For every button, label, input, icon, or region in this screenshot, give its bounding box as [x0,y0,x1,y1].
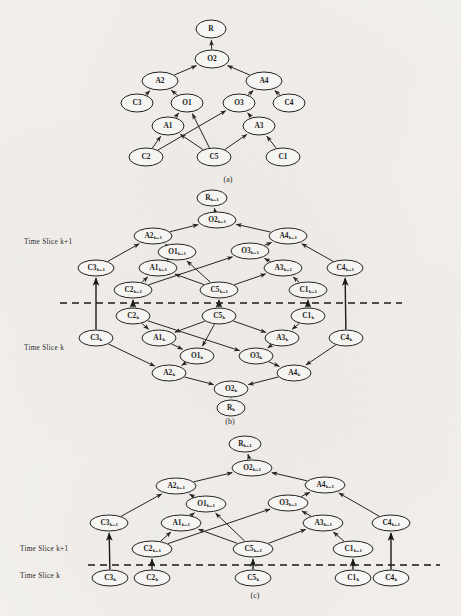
bayesian-network-diagram: RO2A2A4C3O1O3C4A1A3C2C5C1(a)Rk+1O2k+1A2k… [0,0,461,616]
node-subscript: k [256,577,259,582]
node-R-k[interactable]: Rk [217,400,245,416]
node-C1-k[interactable]: C1k [335,570,371,586]
node-subscript: k [172,372,175,377]
node-label: A1 [149,263,158,272]
node-label: A2 [167,481,176,490]
edge-C1k1-to-A3k1 [333,532,344,541]
node-O1-k[interactable]: O1k [180,348,214,364]
edge-C5k1-to-O1k1 [187,261,211,282]
node-C4-k+1[interactable]: C4k+1 [327,260,363,276]
node-label: A3 [314,518,323,527]
time-slice-label: Time Slice k [24,344,64,352]
node-A3-k+1[interactable]: A3k+1 [303,515,343,531]
node-O3[interactable]: O3 [223,94,255,112]
node-subscript: k+1 [326,484,335,489]
node-A4-k[interactable]: A4k [277,365,311,381]
node-R[interactable]: R [196,20,226,38]
node-label: A4 [288,368,297,377]
node-A1-k+1[interactable]: A1k+1 [161,515,201,531]
node-A4-k+1[interactable]: A4k+1 [305,477,345,493]
node-C5-k+1[interactable]: C5k+1 [233,541,273,557]
node-C5-k[interactable]: C5k [235,570,271,586]
node-A4[interactable]: A4 [246,72,282,90]
node-label: A2 [163,368,172,377]
node-C2-k+1[interactable]: C2k+1 [132,541,172,557]
node-subscript: k [200,355,203,360]
node-A1-k[interactable]: A1k [142,330,176,346]
node-subscript: k+1 [153,548,162,553]
node-C2-k+1[interactable]: C2k+1 [114,282,152,298]
node-O3-k+1[interactable]: O3k+1 [268,495,308,511]
node-C3-k[interactable]: C3k [79,330,113,346]
node-C4[interactable]: C4 [273,94,305,112]
node-label: C2 [143,544,152,553]
edge-C5k1-to-A3k1 [268,529,305,543]
node-C2-k[interactable]: C2k [116,308,150,324]
node-O1-k+1[interactable]: O1k+1 [186,496,226,512]
node-A2[interactable]: A2 [142,72,178,90]
node-O3-k+1[interactable]: O3k+1 [231,243,269,259]
node-subscript: k [234,388,237,393]
node-A3-k[interactable]: A3k [265,330,299,346]
node-A2-k+1[interactable]: A2k+1 [134,228,172,244]
node-C1-k+1[interactable]: C1k+1 [333,541,373,557]
node-O1-k+1[interactable]: O1k+1 [158,244,196,260]
node-subscript: k+1 [182,522,191,527]
node-label: C1 [344,544,353,553]
node-label: C4 [284,98,293,107]
node-label: O2 [207,54,217,63]
node-O2-k+1[interactable]: O2k+1 [232,460,272,476]
edge-A2-to-O2 [174,66,196,75]
node-C2[interactable]: C2 [129,148,163,166]
node-subscript: k+1 [289,235,298,240]
node-C3-k+1[interactable]: C3k+1 [90,515,128,531]
node-label: O3 [279,498,289,507]
node-A3[interactable]: A3 [243,117,275,135]
node-A1[interactable]: A1 [152,117,184,135]
node-C4-k[interactable]: C4k [373,570,409,586]
node-C3-k[interactable]: C3k [92,570,128,586]
node-subscript: k [162,337,165,342]
node-O2[interactable]: O2 [195,50,229,68]
node-O2-k[interactable]: O2k [214,381,248,397]
node-A4-k+1[interactable]: A4k+1 [269,228,307,244]
node-C5[interactable]: C5 [197,148,231,166]
node-O3-k[interactable]: O3k [239,348,273,364]
node-R-k+1[interactable]: Rk+1 [197,190,227,206]
edge-C3k-to-A2k [108,344,154,366]
panel-c: Rk+1O2k+1A2k+1A4k+1O1k+1O3k+1C3k+1A1k+1A… [20,436,440,600]
node-subscript: k+1 [244,443,253,448]
node-subscript: k [99,337,102,342]
node-C4-k[interactable]: C4k [329,330,363,346]
node-C5-k+1[interactable]: C5k+1 [200,282,238,298]
node-C3[interactable]: C3 [121,94,153,112]
edge-A4k-to-O2k [248,377,278,385]
edge-C5k1-to-A1k1 [175,274,204,284]
node-label: C2 [127,311,136,320]
node-A1-k+1[interactable]: A1k+1 [139,260,177,276]
node-R-k+1[interactable]: Rk+1 [229,436,261,452]
node-O1[interactable]: O1 [171,94,203,112]
node-C1[interactable]: C1 [266,148,300,166]
node-C2-k[interactable]: C2k [134,570,170,586]
panels-layer: RO2A2A4C3O1O3C4A1A3C2C5C1(a)Rk+1O2k+1A2k… [20,20,440,600]
node-C3-k+1[interactable]: C3k+1 [78,260,114,276]
node-O2-k+1[interactable]: O2k+1 [198,212,236,228]
panel-caption-b: (b) [225,417,235,426]
edge-A4-to-O2 [228,66,250,75]
panel-a: RO2A2A4C3O1O3C4A1A3C2C5C1(a) [121,20,305,184]
edge-A4k1-to-O2k1 [272,473,307,481]
edge-A2k-to-O2k [184,377,213,385]
edge-C2k1-to-A1k1 [161,532,171,541]
node-C5-k[interactable]: C5k [202,308,236,324]
node-label: O2 [225,384,235,393]
node-label: C1 [299,285,308,294]
node-A2-k[interactable]: A2k [152,365,186,381]
time-slice-label: Time Slice k [20,572,60,580]
node-A2-k+1[interactable]: A2k+1 [156,478,196,494]
node-C1-k+1[interactable]: C1k+1 [289,282,327,298]
time-slice-label: Time Slice k+1 [20,545,68,553]
node-C1-k[interactable]: C1k [291,308,325,324]
node-C4-k+1[interactable]: C4k+1 [372,515,410,531]
node-A3-k+1[interactable]: A3k+1 [264,260,302,276]
